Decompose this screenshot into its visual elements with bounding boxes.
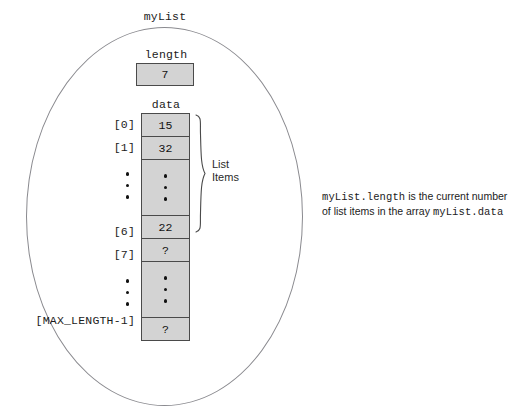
vertical-ellipsis-icon xyxy=(164,262,168,317)
array-index-label-max: [MAX_LENGTH-1] xyxy=(15,314,135,327)
caption-text-1: is the current number xyxy=(408,190,507,202)
vertical-ellipsis-icon xyxy=(164,160,168,215)
data-field-label: data xyxy=(111,98,221,111)
array-cell-ellipsis xyxy=(142,160,189,216)
object-title: myList xyxy=(0,10,330,23)
array-cell: ? xyxy=(142,239,189,262)
list-items-label-line1: List xyxy=(212,158,239,171)
array-cell-ellipsis xyxy=(142,262,189,318)
array-index-ellipsis-lower xyxy=(15,279,135,306)
length-field-value-box: 7 xyxy=(136,63,194,86)
array-index-label-7: [7] xyxy=(15,248,135,261)
array-cell: 32 xyxy=(142,137,189,160)
caption-text-2: of list items in the array xyxy=(322,205,430,217)
array-cell: 15 xyxy=(142,114,189,137)
list-items-brace-icon xyxy=(194,114,208,233)
list-items-label: List Items xyxy=(212,158,239,183)
diagram-canvas: myList length 7 data [0] [1] [6] [7] [MA… xyxy=(0,0,518,417)
list-items-label-line2: Items xyxy=(212,171,239,184)
array-index-label-0: [0] xyxy=(15,118,135,131)
explanatory-caption: myList.length is the current number of l… xyxy=(322,190,518,219)
array-index-ellipsis-upper xyxy=(15,172,135,199)
array-index-label-1: [1] xyxy=(15,141,135,154)
length-field-label: length xyxy=(111,48,221,61)
array-cell: ? xyxy=(142,318,189,341)
array-index-label-6: [6] xyxy=(15,225,135,238)
array-data-column: 15 32 22 ? ? xyxy=(141,113,190,341)
caption-code-length: myList.length xyxy=(322,191,405,203)
caption-code-data: myList.data xyxy=(433,206,503,218)
array-cell: 22 xyxy=(142,216,189,239)
